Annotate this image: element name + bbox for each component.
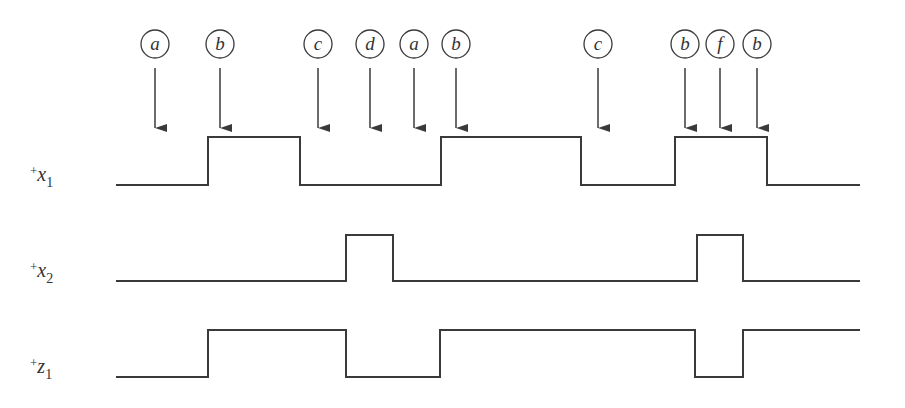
variable-name: x bbox=[37, 259, 46, 281]
event-label: b bbox=[752, 33, 762, 54]
signal-label-x1: +x1 bbox=[30, 163, 53, 191]
event-marker-a: a bbox=[141, 30, 169, 128]
event-label: b bbox=[680, 33, 690, 54]
event-marker-c: c bbox=[304, 30, 332, 128]
event-marker-b: b bbox=[206, 30, 234, 128]
waveform-z1 bbox=[116, 330, 860, 377]
event-label: d bbox=[365, 33, 375, 54]
variable-subscript: 1 bbox=[46, 175, 53, 190]
variable-subscript: 1 bbox=[45, 367, 52, 382]
event-marker-a: a bbox=[400, 30, 428, 128]
event-label: b bbox=[451, 33, 461, 54]
event-label: c bbox=[594, 33, 603, 54]
event-label: c bbox=[314, 33, 323, 54]
variable-name: z bbox=[37, 355, 45, 377]
event-marker-c: c bbox=[584, 30, 612, 128]
event-markers: abcdabcbfb bbox=[141, 30, 771, 128]
variable-subscript: 2 bbox=[46, 271, 53, 286]
event-marker-d: d bbox=[356, 30, 384, 128]
event-label: b bbox=[215, 33, 225, 54]
event-marker-f: f bbox=[706, 30, 734, 128]
signal-label-x2: +x2 bbox=[30, 259, 53, 287]
event-label: f bbox=[717, 33, 725, 54]
event-label: a bbox=[150, 33, 160, 54]
timing-diagram: abcdabcbfb bbox=[0, 0, 905, 408]
event-marker-b: b bbox=[671, 30, 699, 128]
waveform-x2 bbox=[116, 235, 860, 281]
signal-waveforms bbox=[116, 137, 860, 377]
event-label: a bbox=[409, 33, 419, 54]
event-marker-b: b bbox=[743, 30, 771, 128]
variable-name: x bbox=[37, 163, 46, 185]
event-marker-b: b bbox=[442, 30, 470, 128]
waveform-x1 bbox=[116, 137, 860, 185]
signal-label-z1: +z1 bbox=[30, 355, 52, 383]
